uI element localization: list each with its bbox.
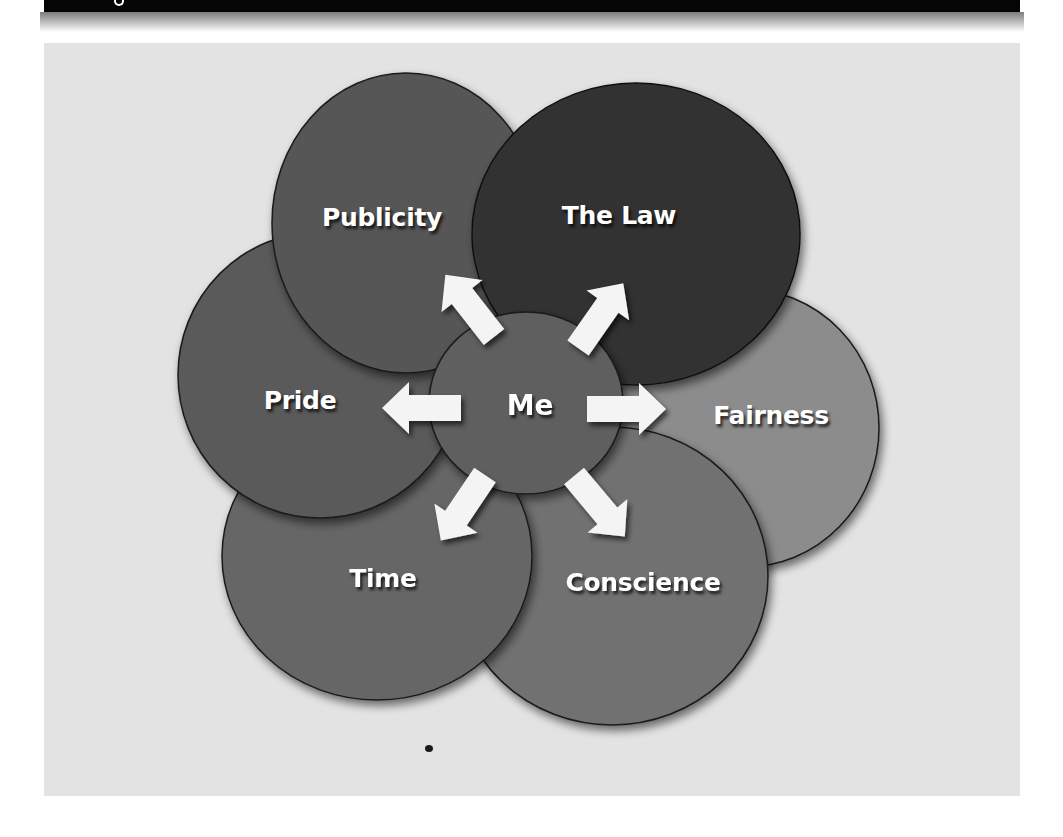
label-publicity: Publicity [322,203,442,232]
label-fairness: Fairness [713,401,829,430]
label-me: Me [507,389,553,422]
stray-dot [425,745,433,752]
label-time: Time [349,564,416,593]
label-conscience: Conscience [565,568,720,597]
label-pride: Pride [264,386,337,415]
label-the-law: The Law [562,201,676,230]
